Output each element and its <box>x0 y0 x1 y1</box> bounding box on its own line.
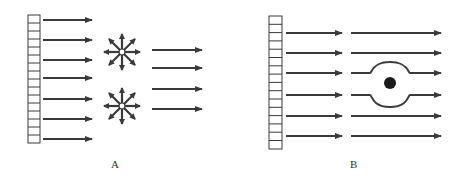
outgoing-arrows-a <box>152 50 202 109</box>
panel-label-a: A <box>111 158 119 170</box>
grating-b <box>269 16 282 149</box>
incoming-arrows-b <box>286 33 342 136</box>
scatterer-center-1 <box>119 49 125 55</box>
panel-b <box>269 16 441 149</box>
panel-label-b: B <box>350 158 357 170</box>
diffracted-arrows-b <box>351 62 441 107</box>
diagram-canvas <box>0 0 458 182</box>
panel-a <box>28 15 202 143</box>
incoming-arrows-a <box>43 20 92 139</box>
obstacle-dot-icon <box>384 77 396 89</box>
grating-a <box>28 15 40 143</box>
transmitted-arrows-b <box>351 33 441 136</box>
scatterer-center-2 <box>119 103 125 109</box>
